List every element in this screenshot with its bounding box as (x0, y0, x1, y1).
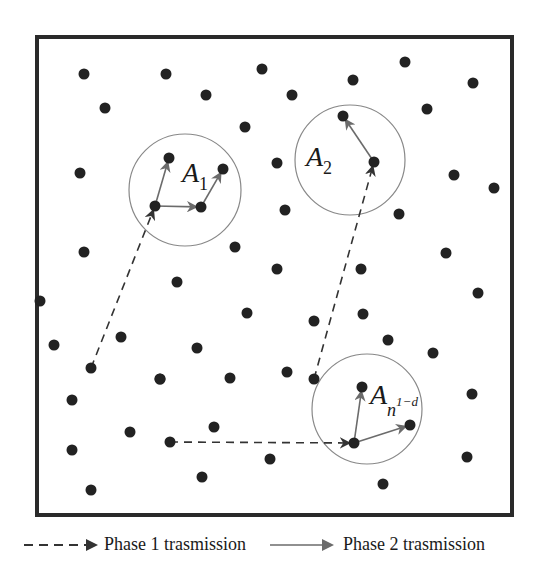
cluster-label: A1 (180, 157, 208, 194)
cluster-node (405, 420, 416, 431)
node (79, 69, 90, 80)
node (473, 288, 484, 299)
node (67, 395, 78, 406)
phase2-arrow (354, 426, 406, 443)
node (441, 248, 452, 259)
node (394, 209, 405, 220)
cluster-circle (312, 354, 422, 464)
node (282, 367, 293, 378)
cluster-label: A2 (304, 141, 332, 178)
phase1-arrow (91, 210, 154, 368)
solid-arrow-icon (268, 538, 336, 552)
node (422, 104, 433, 115)
cluster-label: An1−d (368, 379, 418, 420)
node (201, 90, 212, 101)
node (489, 183, 500, 194)
node (348, 75, 359, 86)
node (100, 103, 111, 114)
cluster-circle (129, 134, 241, 246)
node (230, 242, 241, 253)
cluster-node (338, 111, 349, 122)
node (240, 122, 251, 133)
node (35, 296, 46, 307)
node (197, 472, 208, 483)
legend-phase2-label: Phase 2 trasmission (343, 534, 485, 555)
node (209, 422, 220, 433)
node (378, 479, 389, 490)
node (242, 308, 253, 319)
node (280, 205, 291, 216)
network-diagram: A1A2An1−d (0, 0, 548, 570)
dashed-arrow-icon (22, 538, 100, 552)
phase1-edges (91, 166, 373, 443)
node (257, 64, 268, 75)
node (165, 437, 176, 448)
phase2-arrow (155, 206, 197, 207)
cluster-node (369, 157, 380, 168)
phase2-arrow (345, 119, 374, 162)
node (265, 454, 276, 465)
node (400, 57, 411, 68)
legend: Phase 1 trasmission Phase 2 trasmission (0, 528, 548, 562)
node (462, 452, 473, 463)
node (172, 277, 183, 288)
node (67, 445, 78, 456)
node (449, 170, 460, 181)
node (155, 374, 166, 385)
node (467, 389, 478, 400)
node (49, 340, 60, 351)
cluster-node (150, 201, 161, 212)
node (309, 316, 320, 327)
node (356, 264, 367, 275)
phase2-arrow (155, 162, 168, 206)
node (272, 264, 283, 275)
phase2-arrow (354, 391, 361, 443)
cluster-node (349, 438, 360, 449)
node (358, 309, 369, 320)
node (79, 247, 90, 258)
node (383, 335, 394, 346)
node (272, 158, 283, 169)
node (309, 374, 320, 385)
cluster-node (218, 164, 229, 175)
node (161, 69, 172, 80)
legend-phase1-label: Phase 1 trasmission (104, 534, 246, 555)
cluster-node (164, 153, 175, 164)
node (86, 363, 97, 374)
node (125, 427, 136, 438)
node (468, 78, 479, 89)
cluster-node (196, 202, 207, 213)
node (287, 90, 298, 101)
network-nodes (35, 57, 500, 496)
node (75, 168, 86, 179)
node (86, 485, 97, 496)
cluster-node (357, 382, 368, 393)
node (192, 343, 203, 354)
node (225, 373, 236, 384)
node (428, 348, 439, 359)
node (116, 332, 127, 343)
